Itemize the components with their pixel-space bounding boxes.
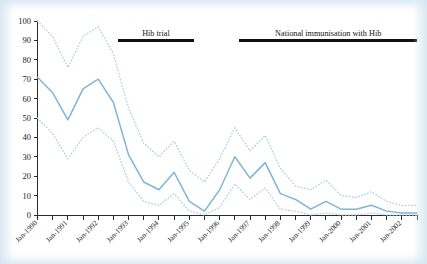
confidence-bound-line bbox=[38, 21, 418, 205]
x-tick-label: Jan-2000 bbox=[317, 218, 343, 244]
y-tick-label: 80 bbox=[23, 55, 32, 65]
x-tick-label: Jan-1997 bbox=[226, 218, 252, 244]
annotation-label: Hib trial bbox=[142, 29, 170, 38]
y-tick-label: 20 bbox=[23, 171, 32, 181]
incidence-rate-line bbox=[38, 77, 418, 213]
x-tick-label: Jan-2001 bbox=[347, 218, 373, 244]
chart-figure: 0102030405060708090100 Jan-1990Jan-1991J… bbox=[0, 0, 427, 264]
x-tick-label: Jan-1991 bbox=[44, 218, 70, 244]
y-tick-label: 100 bbox=[18, 16, 31, 26]
y-tick-label: 50 bbox=[23, 113, 32, 123]
y-tick-label: 40 bbox=[23, 132, 32, 142]
y-tick-label: 60 bbox=[23, 94, 32, 104]
y-tick-label: 30 bbox=[23, 152, 32, 162]
x-tick-label: Jan-1993 bbox=[104, 218, 130, 244]
chart-annotations-group: Hib trialNational immunisation with Hib bbox=[118, 29, 417, 41]
x-tick-label: Jan-1996 bbox=[196, 218, 222, 244]
x-tick-label: Jan-1990 bbox=[13, 218, 39, 244]
x-tick-label: Jan-1995 bbox=[165, 218, 191, 244]
chart-series-group bbox=[38, 21, 418, 215]
x-tick-label: Jan-2002 bbox=[378, 218, 404, 244]
confidence-bound-line bbox=[38, 118, 418, 215]
x-tick-label: Jan-1999 bbox=[287, 218, 313, 244]
incidence-line-chart: 0102030405060708090100 Jan-1990Jan-1991J… bbox=[0, 0, 427, 264]
annotation-label: National immunisation with Hib bbox=[275, 29, 381, 38]
x-tick-label: Jan-1998 bbox=[256, 218, 282, 244]
x-tick-label: Jan-1994 bbox=[135, 218, 161, 244]
y-axis: 0102030405060708090100 bbox=[18, 16, 37, 220]
x-axis: Jan-1990Jan-1991Jan-1992Jan-1993Jan-1994… bbox=[13, 215, 417, 244]
y-tick-label: 70 bbox=[23, 74, 32, 84]
x-tick-label: Jan-1992 bbox=[74, 218, 100, 244]
y-tick-label: 10 bbox=[23, 191, 32, 201]
y-tick-label: 0 bbox=[27, 210, 31, 220]
y-tick-label: 90 bbox=[23, 35, 32, 45]
